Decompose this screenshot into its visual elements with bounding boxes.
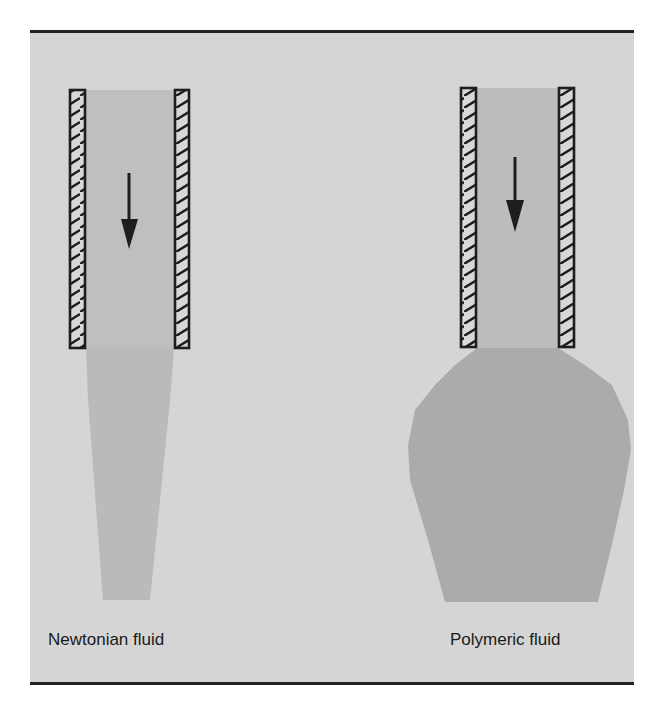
- left-wall: [461, 88, 476, 347]
- polymeric-fluid-label: Polymeric fluid: [450, 630, 561, 650]
- left-wall: [70, 90, 85, 348]
- right-wall: [175, 90, 189, 348]
- polymeric-swell: [408, 348, 631, 602]
- newtonian-fluid-label: Newtonian fluid: [48, 630, 164, 650]
- right-wall: [559, 88, 574, 347]
- die-swell-diagram: [0, 0, 661, 706]
- newtonian-tube: [70, 90, 189, 600]
- polymeric-tube: [408, 88, 631, 602]
- newtonian-stream: [86, 348, 174, 600]
